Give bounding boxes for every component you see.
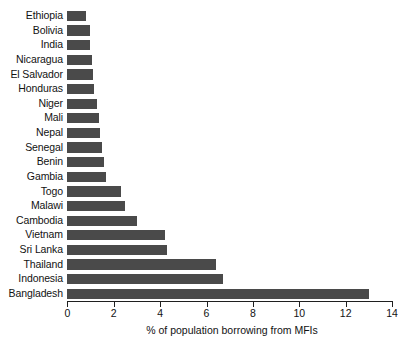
bar — [67, 259, 215, 269]
y-axis-label: Bolivia — [0, 24, 63, 38]
bar-row — [67, 214, 392, 228]
bar-row — [67, 82, 392, 96]
y-axis-label: Togo — [0, 185, 63, 199]
bar-row — [67, 53, 392, 67]
x-axis-title: % of population borrowing from MFIs — [0, 324, 409, 336]
bar — [67, 186, 120, 196]
y-axis-label: Sri Lanka — [0, 243, 63, 257]
bar-row — [67, 24, 392, 38]
bar-chart: EthiopiaBoliviaIndiaNicaraguaEl Salvador… — [0, 0, 409, 348]
bar-row — [67, 68, 392, 82]
x-tick-mark — [160, 302, 161, 307]
y-axis-label: India — [0, 38, 63, 52]
x-tick-label: 2 — [111, 307, 117, 319]
x-tick-mark — [67, 302, 68, 307]
bar-row — [67, 272, 392, 286]
y-axis-label: Nicaragua — [0, 53, 63, 67]
bar-row — [67, 126, 392, 140]
bar-row — [67, 9, 392, 23]
y-axis-label: Thailand — [0, 258, 63, 272]
bar — [67, 289, 369, 299]
x-tick-mark — [207, 302, 208, 307]
bar — [67, 157, 104, 167]
y-axis-label: Senegal — [0, 141, 63, 155]
bar-row — [67, 111, 392, 125]
x-tick-mark — [346, 302, 347, 307]
bar — [67, 216, 137, 226]
bar-row — [67, 38, 392, 52]
y-axis-label: Nepal — [0, 126, 63, 140]
bar-row — [67, 199, 392, 213]
bar-row — [67, 287, 392, 301]
x-tick-mark — [114, 302, 115, 307]
bar-row — [67, 97, 392, 111]
bar-series — [67, 9, 392, 301]
bar — [67, 230, 164, 240]
bar — [67, 69, 93, 79]
bar-row — [67, 185, 392, 199]
bar-row — [67, 228, 392, 242]
bar — [67, 55, 91, 65]
plot-area — [67, 9, 392, 301]
bar — [67, 245, 167, 255]
x-tick-mark — [392, 302, 393, 307]
bar — [67, 172, 105, 182]
bar-row — [67, 141, 392, 155]
x-tick-label: 8 — [250, 307, 256, 319]
bar — [67, 40, 90, 50]
bar — [67, 128, 99, 138]
x-tick-mark — [253, 302, 254, 307]
x-tick-label: 10 — [293, 307, 305, 319]
bar-row — [67, 155, 392, 169]
x-tick-label: 6 — [204, 307, 210, 319]
y-axis-label: Cambodia — [0, 214, 63, 228]
bar — [67, 25, 90, 35]
x-axis-ticks: 02468101214 — [0, 302, 409, 324]
y-axis-category-labels: EthiopiaBoliviaIndiaNicaraguaEl Salvador… — [0, 9, 63, 301]
bar — [67, 113, 98, 123]
x-tick-label: 14 — [386, 307, 398, 319]
bar — [67, 11, 86, 21]
bar — [67, 142, 102, 152]
bar — [67, 274, 222, 284]
bar-row — [67, 170, 392, 184]
y-axis-label: Gambia — [0, 170, 63, 184]
y-axis-label: El Salvador — [0, 68, 63, 82]
bar — [67, 201, 125, 211]
y-axis-label: Bangladesh — [0, 287, 63, 301]
x-tick-mark — [299, 302, 300, 307]
bar-row — [67, 243, 392, 257]
x-tick-label: 12 — [340, 307, 352, 319]
x-tick-label: 0 — [64, 307, 70, 319]
x-tick-label: 4 — [157, 307, 163, 319]
y-axis-label: Malawi — [0, 199, 63, 213]
bar — [67, 99, 97, 109]
y-axis-label: Indonesia — [0, 272, 63, 286]
y-axis-label: Niger — [0, 97, 63, 111]
y-axis-label: Benin — [0, 155, 63, 169]
y-axis-label: Ethiopia — [0, 9, 63, 23]
bar-row — [67, 258, 392, 272]
y-axis-label: Honduras — [0, 82, 63, 96]
bar — [67, 84, 94, 94]
y-axis-label: Mali — [0, 111, 63, 125]
y-axis-label: Vietnam — [0, 228, 63, 242]
